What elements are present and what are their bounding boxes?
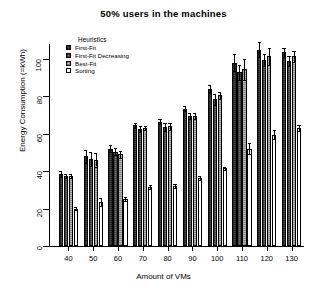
legend-item[interactable]: First-Fit Decreasing	[66, 52, 129, 59]
y-tick	[43, 96, 49, 97]
error-bar-cap	[193, 119, 196, 120]
bar	[292, 56, 296, 246]
y-axis-line	[49, 44, 50, 246]
error-bar-cap	[263, 66, 266, 67]
legend-swatch	[66, 53, 71, 58]
error-bar-cap	[198, 180, 201, 181]
error-bar-cap	[59, 171, 62, 172]
x-tick	[168, 246, 169, 251]
error-bar-cap	[124, 201, 127, 202]
error-bar-cap	[238, 65, 241, 66]
y-tick	[43, 59, 49, 60]
bar	[257, 50, 261, 246]
error-bar-cap	[84, 163, 87, 164]
error-bar-cap	[213, 105, 216, 106]
y-tick-label: 80	[35, 96, 44, 104]
bar	[198, 178, 202, 246]
error-bar-cap	[94, 167, 97, 168]
y-axis-label: Energy Consumption (=kWh)	[18, 31, 27, 171]
bar	[188, 116, 192, 246]
error-bar-cap	[282, 57, 285, 58]
x-tick	[143, 246, 144, 251]
x-tick	[118, 246, 119, 251]
error-bar	[215, 94, 216, 105]
error-bar-cap	[173, 184, 176, 185]
error-bar	[120, 151, 121, 158]
y-tick-label: 20	[35, 209, 44, 217]
error-bar-cap	[248, 154, 251, 155]
error-bar-cap	[114, 155, 117, 156]
bar	[272, 135, 276, 246]
bar	[148, 187, 152, 246]
y-tick	[43, 134, 49, 135]
error-bar-cap	[149, 185, 152, 186]
bar	[64, 176, 68, 246]
error-bar-cap	[144, 126, 147, 127]
bar	[99, 202, 103, 246]
error-bar	[234, 54, 235, 71]
bar	[223, 168, 227, 246]
bar	[89, 159, 93, 246]
bar	[297, 128, 301, 246]
error-bar-cap	[268, 65, 271, 66]
error-bar	[220, 92, 221, 99]
error-bar-cap	[99, 198, 102, 199]
error-bar	[294, 51, 295, 62]
bar	[113, 152, 117, 246]
error-bar-cap	[109, 152, 112, 153]
bar-group	[183, 44, 202, 246]
error-bar-cap	[188, 119, 191, 120]
error-bar-cap	[158, 124, 161, 125]
error-bar-cap	[218, 99, 221, 100]
error-bar-cap	[94, 153, 97, 154]
error-bar-cap	[188, 113, 191, 114]
bar	[84, 156, 88, 246]
error-bar-cap	[263, 54, 266, 55]
error-bar-cap	[99, 206, 102, 207]
legend-label: First-Fit	[75, 44, 96, 51]
error-bar-cap	[297, 131, 300, 132]
y-tick-label: 60	[35, 134, 44, 142]
error-bar-cap	[183, 106, 186, 107]
error-bar	[165, 123, 166, 130]
bar	[193, 116, 197, 246]
bar-group	[232, 44, 251, 246]
bar	[108, 149, 112, 246]
error-bar-cap	[297, 125, 300, 126]
x-tick	[292, 246, 293, 251]
error-bar-cap	[139, 126, 142, 127]
chart-container: 50% users in the machines Energy Consump…	[0, 0, 327, 300]
error-bar-cap	[233, 71, 236, 72]
bar	[118, 154, 122, 246]
error-bar-cap	[139, 132, 142, 133]
error-bar-cap	[114, 148, 117, 149]
legend-item[interactable]: Best-Fit	[66, 60, 129, 67]
bar-group	[282, 44, 301, 246]
error-bar-cap	[119, 151, 122, 152]
error-bar	[244, 59, 245, 80]
legend-item[interactable]: First-Fit	[66, 45, 129, 52]
error-bar-cap	[149, 189, 152, 190]
error-bar-cap	[144, 130, 147, 131]
error-bar-cap	[292, 51, 295, 52]
error-bar-cap	[168, 123, 171, 124]
x-tick	[192, 246, 193, 251]
error-bar-cap	[119, 158, 122, 159]
bar	[143, 128, 147, 246]
error-bar-cap	[282, 48, 285, 49]
error-bar-cap	[59, 177, 62, 178]
bar	[69, 176, 73, 246]
error-bar-cap	[218, 92, 221, 93]
error-bar	[289, 56, 290, 65]
error-bar-cap	[243, 80, 246, 81]
bar	[158, 122, 162, 246]
error-bar	[110, 145, 111, 152]
x-tick	[267, 246, 268, 251]
error-bar	[264, 54, 265, 65]
bar-group	[133, 44, 152, 246]
error-bar-cap	[158, 119, 161, 120]
bar	[213, 99, 217, 246]
y-tick-label: 40	[35, 171, 44, 179]
bar	[183, 109, 187, 246]
legend-item[interactable]: Sorting	[66, 68, 129, 75]
